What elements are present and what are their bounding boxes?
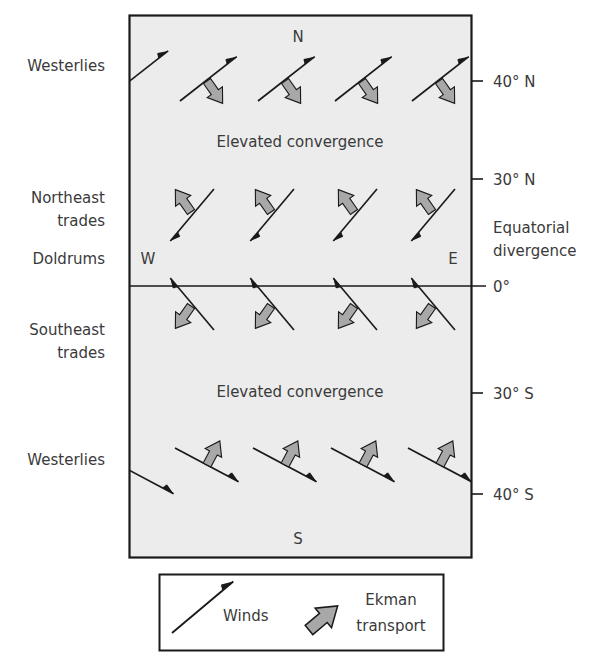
west-label: W (141, 250, 156, 268)
ekman-transport-diagram: N S W E Elevated convergence Elevated co… (0, 0, 594, 666)
legend-ekman-label-1: Ekman (365, 591, 416, 609)
latitude-ticks (472, 81, 483, 494)
elevated-convergence-south: Elevated convergence (216, 383, 383, 401)
legend-ekman-label-2: transport (356, 617, 425, 635)
label-northeast-trades-1: Northeast (31, 189, 105, 207)
label-30n: 30° N (493, 171, 536, 189)
label-doldrums: Doldrums (32, 250, 105, 268)
label-40n: 40° N (493, 73, 536, 91)
elevated-convergence-north: Elevated convergence (216, 133, 383, 151)
label-30s: 30° S (493, 385, 534, 403)
legend-box (160, 575, 444, 651)
label-southeast-trades-1: Southeast (29, 321, 105, 339)
label-westerlies-south: Westerlies (27, 451, 105, 469)
east-label: E (448, 250, 457, 268)
label-westerlies-north: Westerlies (27, 57, 105, 75)
label-40s: 40° S (493, 486, 534, 504)
label-southeast-trades-2: trades (57, 344, 105, 362)
label-northeast-trades-2: trades (57, 212, 105, 230)
south-label: S (293, 530, 303, 548)
label-equatorial-1: Equatorial (493, 219, 569, 237)
label-0: 0° (493, 278, 510, 296)
legend-winds-label: Winds (223, 607, 269, 625)
label-equatorial-2: divergence (493, 242, 576, 260)
north-label: N (292, 28, 303, 46)
legend: Winds Ekman transport (160, 575, 444, 651)
